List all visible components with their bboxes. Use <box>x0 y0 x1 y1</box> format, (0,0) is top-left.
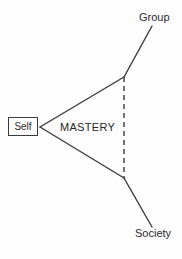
node-mastery-label: MASTERY <box>60 122 115 133</box>
node-self-label: Self <box>9 118 37 135</box>
edge-self-to-society-vertex <box>40 127 124 178</box>
edge-self-to-group-vertex <box>40 77 124 127</box>
edge-group-vertex-to-group <box>124 26 152 77</box>
edge-society-vertex-to-society <box>124 178 152 227</box>
mastery-diagram: Self MASTERY Group Society <box>0 0 182 259</box>
node-self: Self <box>8 117 38 136</box>
node-group-label: Group <box>139 12 170 23</box>
node-society-label: Society <box>135 228 171 239</box>
